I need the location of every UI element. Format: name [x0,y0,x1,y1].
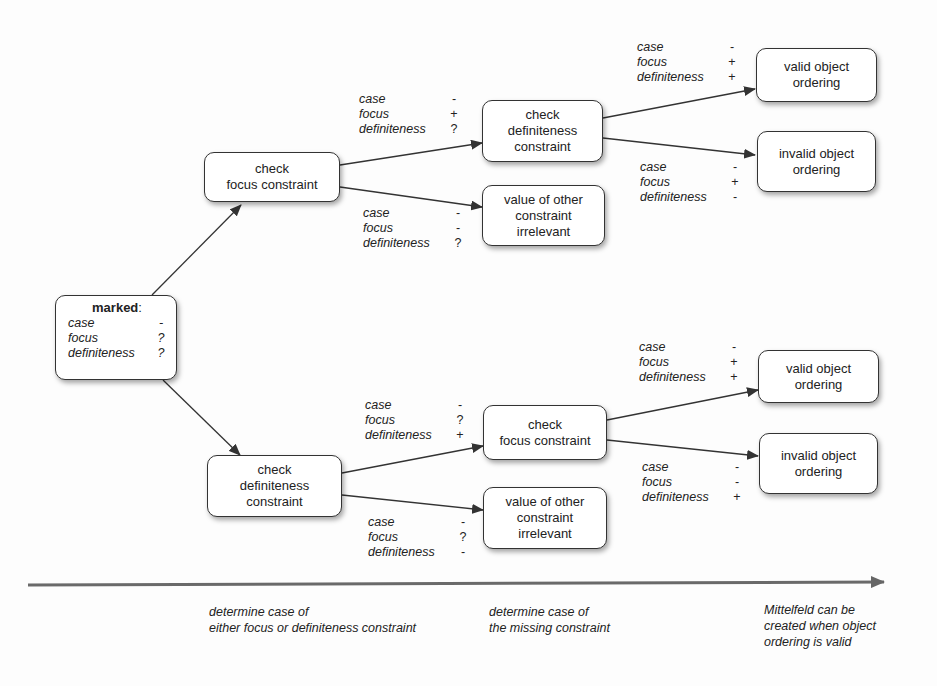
node-line: check [255,161,289,177]
timeline-caption-stage-3: Mittelfeld can be created when object or… [764,602,876,650]
bottom-edge-label-to-irrelevant: case- focus? definiteness- [368,515,468,560]
condition-value: ? [458,530,468,545]
node-line: constraint [515,208,571,224]
condition-value: - [458,515,468,530]
condition-value: + [449,107,459,122]
diagram-canvas: marked: case- focus? definiteness? check… [0,0,937,686]
top-check-focus-node: check focus constraint [204,152,340,202]
condition-value: + [730,175,740,190]
condition-value: ? [455,413,465,428]
condition-key: case [637,40,727,55]
root-condition-focus: focus? [68,331,166,346]
caption-line: Mittelfeld can be [764,602,876,618]
edge-root-to-top-check [152,205,241,295]
node-line: irrelevant [517,224,570,240]
condition-value: + [727,55,737,70]
node-line: constraint [514,139,570,155]
condition-key: definiteness [359,122,449,137]
condition-key: definiteness [365,428,455,443]
condition-key: case [368,515,458,530]
condition-key: focus [640,175,730,190]
bottom-irrelevant-node: value of other constraint irrelevant [483,487,607,549]
node-line: ordering [793,75,841,91]
bottom-edge-label-to-next: case- focus? definiteness+ [365,398,465,443]
condition-value: ? [453,236,463,251]
condition-key: definiteness [363,236,453,251]
condition-key: case [359,92,449,107]
root-title-colon: : [138,300,142,315]
condition-key: focus [68,331,156,346]
condition-key: focus [642,475,732,490]
node-line: check [526,107,560,123]
edge-top-check-to-irrelevant [340,187,482,207]
condition-key: definiteness [639,370,729,385]
condition-value: - [730,160,740,175]
caption-line: ordering is valid [764,634,876,650]
caption-line: either focus or definiteness constraint [209,620,416,636]
bottom-valid-ordering-node: valid object ordering [758,350,879,403]
condition-value: + [455,428,465,443]
node-line: constraint [246,494,302,510]
condition-value: - [458,545,468,560]
node-line: valid object [784,59,849,75]
condition-value: ? [156,331,166,346]
node-line: value of other [506,494,585,510]
condition-key: definiteness [637,70,727,85]
node-line: valid object [786,361,851,377]
top-edge-label-to-irrelevant: case- focus- definiteness? [363,206,463,251]
timeline-caption-stage-2: determine case of the missing constraint [489,604,610,636]
edge-bottom-second-check-to-invalid [607,440,758,456]
condition-key: focus [359,107,449,122]
edge-bottom-check-to-irrelevant [342,495,483,510]
bottom-check-focus-node: check focus constraint [483,405,607,460]
condition-key: focus [637,55,727,70]
top-edge-label-to-valid: case- focus+ definiteness+ [637,40,737,85]
top-invalid-ordering-node: invalid object ordering [757,131,876,192]
condition-key: case [640,160,730,175]
condition-value: - [453,206,463,221]
timeline-arrow [28,582,884,585]
node-line: constraint [517,510,573,526]
condition-value: - [732,460,742,475]
node-line: check [258,462,292,478]
edge-bottom-check-to-second-check [342,446,483,473]
node-line: ordering [795,464,843,480]
root-title-text: marked [92,300,138,315]
node-line: irrelevant [518,526,571,542]
node-line: check [528,417,562,433]
condition-value: - [156,316,166,331]
root-title: marked: [92,300,142,316]
top-edge-label-to-next: case- focus+ definiteness? [359,92,459,137]
condition-key: case [365,398,455,413]
top-check-definiteness-node: check definiteness constraint [482,100,603,162]
condition-value: - [455,398,465,413]
node-line: value of other [504,192,583,208]
caption-line: the missing constraint [489,620,610,636]
node-line: definiteness [240,478,309,494]
condition-value: ? [449,122,459,137]
node-line: ordering [793,162,841,178]
condition-value: - [449,92,459,107]
edge-top-second-check-to-invalid [603,138,755,155]
node-line: definiteness [508,123,577,139]
condition-key: definiteness [368,545,458,560]
condition-value: - [729,340,739,355]
node-line: ordering [795,377,843,393]
condition-key: focus [368,530,458,545]
condition-value: + [729,355,739,370]
root-condition-definiteness: definiteness? [68,346,166,361]
condition-key: definiteness [642,490,732,505]
condition-value: - [732,475,742,490]
bottom-invalid-ordering-node: invalid object ordering [759,433,878,494]
edge-bottom-second-check-to-valid [607,390,758,420]
condition-key: case [68,316,156,331]
root-node-marked: marked: case- focus? definiteness? [55,295,177,380]
top-valid-ordering-node: valid object ordering [756,48,877,102]
bottom-edge-label-to-valid: case- focus+ definiteness+ [639,340,739,385]
edge-root-to-bottom-check [163,380,240,455]
condition-value: ? [156,346,166,361]
condition-value: + [732,490,742,505]
node-line: focus constraint [226,177,317,193]
condition-key: focus [365,413,455,428]
timeline-caption-stage-1: determine case of either focus or defini… [209,604,416,636]
